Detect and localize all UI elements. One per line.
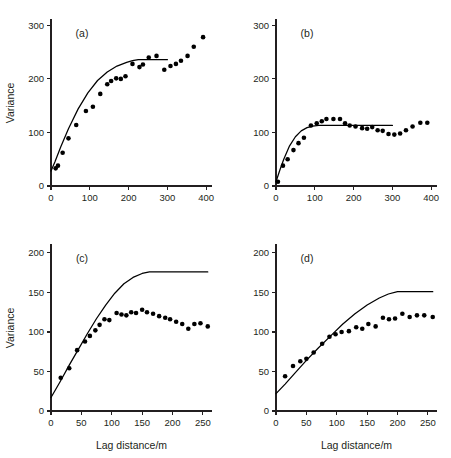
x-tick-label: 100 (104, 417, 120, 428)
panel-label: (c) (76, 252, 88, 264)
x-tick-label: 400 (198, 192, 214, 203)
x-tick-label: 100 (82, 192, 98, 203)
data-point (430, 315, 435, 320)
data-point (180, 322, 185, 327)
data-point (174, 319, 179, 324)
fitted-model-curve (51, 272, 208, 398)
data-point (123, 74, 128, 79)
y-tick-label: 50 (258, 366, 269, 377)
data-point (366, 322, 371, 327)
data-point (162, 68, 167, 73)
data-point (141, 62, 146, 67)
data-point (201, 35, 206, 40)
data-point (425, 121, 430, 126)
x-tick-label: 50 (76, 417, 87, 428)
x-axis-title: Lag distance/m (321, 439, 392, 451)
y-tick-label: 100 (253, 127, 269, 138)
plot-area-b: 01002003000100200300400(b) (225, 0, 450, 229)
y-axis-title: Variance (4, 83, 16, 124)
y-tick-label: 0 (264, 405, 269, 416)
data-point (319, 119, 324, 124)
data-point (191, 44, 196, 49)
x-tick-label: 0 (48, 192, 53, 203)
data-point (387, 317, 392, 322)
data-point (192, 322, 197, 327)
x-tick-label: 250 (420, 417, 436, 428)
data-point (98, 92, 103, 97)
data-point (109, 79, 114, 84)
data-point (285, 157, 290, 162)
x-tick-label: 250 (195, 417, 211, 428)
y-tick-label: 200 (28, 73, 44, 84)
panel-label: (a) (76, 27, 89, 39)
y-tick-label: 0 (39, 180, 44, 191)
data-point (97, 323, 102, 328)
data-point (291, 148, 296, 153)
data-point (114, 76, 119, 81)
y-tick-label: 150 (28, 287, 44, 298)
data-point (360, 326, 365, 331)
data-point (186, 326, 191, 331)
data-point (91, 104, 96, 109)
data-point (66, 136, 71, 141)
data-point (283, 374, 288, 379)
data-point (386, 132, 391, 137)
y-tick-label: 50 (33, 366, 44, 377)
data-point (151, 311, 156, 316)
data-point (418, 121, 423, 126)
data-point (291, 364, 296, 369)
data-point (410, 124, 415, 129)
data-point (74, 123, 79, 128)
data-point (179, 58, 184, 63)
data-point (360, 126, 365, 131)
x-tick-label: 200 (390, 417, 406, 428)
data-point (145, 310, 150, 315)
data-point (298, 359, 303, 364)
x-axis-title: Lag distance/m (96, 439, 167, 451)
data-point (198, 321, 203, 326)
data-point (407, 315, 412, 320)
panel-c: 050100150200050100150200250(c)VarianceLa… (0, 225, 225, 454)
y-axis-title: Variance (4, 308, 16, 349)
data-point (339, 330, 344, 335)
data-point (302, 136, 307, 141)
data-point (375, 128, 380, 133)
panel-label: (d) (301, 252, 314, 264)
x-tick-label: 200 (121, 192, 137, 203)
y-tick-label: 0 (264, 180, 269, 191)
data-point (404, 128, 409, 133)
data-point (338, 117, 343, 122)
y-tick-label: 100 (253, 326, 269, 337)
y-tick-label: 0 (39, 405, 44, 416)
panel-d: 050100150200050100150200250(d)Lag distan… (225, 225, 450, 454)
y-tick-label: 100 (28, 127, 44, 138)
data-point (140, 308, 145, 313)
data-point (168, 64, 173, 69)
data-point (56, 163, 61, 168)
x-tick-label: 100 (329, 417, 345, 428)
data-point (88, 334, 93, 339)
data-point (185, 54, 190, 59)
plot-area-d: 050100150200050100150200250(d)Lag distan… (225, 225, 450, 454)
x-tick-label: 0 (48, 417, 53, 428)
data-point (205, 324, 210, 329)
data-point (354, 325, 359, 330)
data-point (365, 126, 370, 131)
x-tick-label: 300 (384, 192, 400, 203)
x-tick-label: 200 (165, 417, 181, 428)
data-point (422, 313, 427, 318)
x-tick-label: 300 (159, 192, 175, 203)
fitted-model-curve (276, 292, 433, 394)
data-point (393, 316, 398, 321)
plot-area-c: 050100150200050100150200250(c)VarianceLa… (0, 225, 225, 454)
data-point (154, 54, 159, 59)
data-point (124, 313, 129, 318)
data-point (163, 315, 168, 320)
data-point (102, 317, 107, 322)
data-point (331, 117, 336, 122)
y-tick-label: 200 (28, 247, 44, 258)
data-point (398, 131, 403, 136)
data-point (84, 109, 89, 114)
data-point (129, 310, 134, 315)
y-tick-label: 300 (253, 20, 269, 31)
